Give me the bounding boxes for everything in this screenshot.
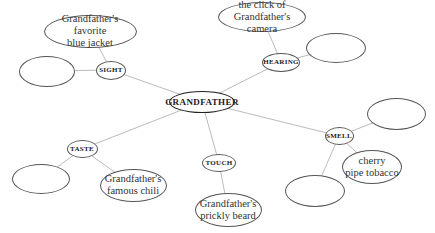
node-label-line: SIGHT [99,66,123,74]
central-topic-node-text: GRANDFATHER [165,97,239,107]
node-label-line: cherry [345,155,398,167]
sense-node-taste: TASTE [67,140,98,158]
sense-node-touch: TOUCH [202,154,236,172]
detail-bubble-text: Grandfather's favoriteblue jacket [45,13,136,49]
node-label-line: SMELL [326,132,352,140]
sense-node-smell-text: SMELL [326,132,352,140]
node-label-line: Grandfather's camera [219,11,305,35]
node-label-line: Grandfather's [200,198,257,210]
node-label-line: GRANDFATHER [165,97,239,107]
detail-bubble: the click ofGrandfather's camera [218,2,306,32]
node-label-line: the click of [219,0,305,11]
detail-bubble: Grandfather's favoriteblue jacket [44,15,137,48]
empty-detail-bubble [19,56,75,87]
detail-bubble: cherrypipe tobacco [342,150,402,184]
node-label-line: HEARING [263,58,299,66]
empty-detail-bubble [306,33,366,63]
detail-bubble-text: the click ofGrandfather's camera [219,0,305,35]
sense-node-smell: SMELL [325,127,354,145]
node-label-line: Grandfather's [105,173,162,185]
empty-detail-bubble [285,175,345,207]
sense-node-hearing: HEARING [262,53,300,72]
node-label-line: pipe tobacco [345,167,398,179]
sense-node-sight: SIGHT [96,61,126,80]
sense-node-hearing-text: HEARING [263,58,299,66]
node-label-line: prickly beard [200,210,257,222]
detail-bubble: Grandfather'sfamous chili [100,169,167,202]
detail-bubble: Grandfather'sprickly beard [195,193,262,227]
empty-detail-bubble [367,98,426,130]
detail-bubble-text: Grandfather'sfamous chili [105,173,162,197]
sense-node-taste-text: TASTE [70,145,94,153]
concept-web-diagram: Grandfather's favoriteblue jacketSIGHTth… [0,0,435,233]
detail-bubble-text: cherrypipe tobacco [345,155,398,179]
node-label-line: TOUCH [205,159,232,167]
empty-detail-bubble [12,164,70,194]
sense-node-touch-text: TOUCH [205,159,232,167]
sense-node-sight-text: SIGHT [99,66,123,74]
node-label-line: famous chili [105,185,162,197]
node-label-line: Grandfather's favorite [45,13,136,37]
central-topic-node: GRANDFATHER [169,91,235,113]
node-label-line: TASTE [70,145,94,153]
node-label-line: blue jacket [45,37,136,49]
detail-bubble-text: Grandfather'sprickly beard [200,198,257,222]
